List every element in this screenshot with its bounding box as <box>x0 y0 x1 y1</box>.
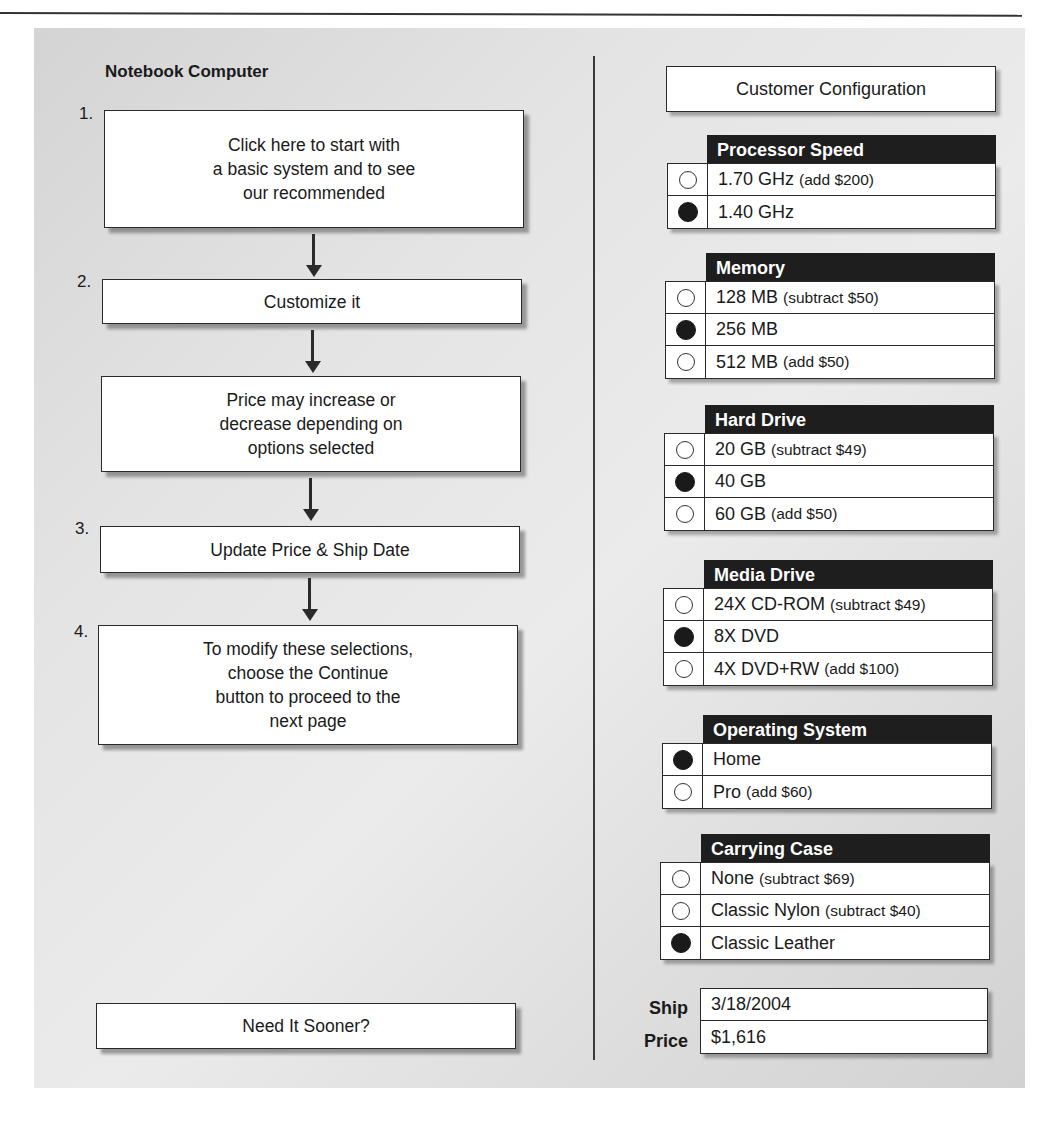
price-value: $1,616 <box>701 1021 987 1053</box>
option-label: 4X DVD+RW <box>714 659 819 680</box>
radio-selected-icon[interactable] <box>673 750 693 770</box>
group-header-processor-speed: Processor Speed <box>707 135 996 163</box>
update-price-ship-date-button[interactable]: Update Price & Ship Date <box>100 526 520 573</box>
option-label: None <box>711 868 754 889</box>
arrow-down-icon <box>302 578 318 622</box>
option-hdd-20gb[interactable]: 20 GB(subtract $49) <box>665 434 993 466</box>
ship-date-value: 3/18/2004 <box>701 989 987 1021</box>
option-os-home[interactable]: Home <box>663 744 991 776</box>
section-title: Notebook Computer <box>105 62 268 82</box>
price-change-note: Price may increase or decrease depending… <box>101 376 521 472</box>
group-hard-drive: 20 GB(subtract $49) 40 GB 60 GB(add $50) <box>664 433 994 531</box>
option-label: 60 GB <box>715 504 766 525</box>
radio-unselected-icon[interactable] <box>672 902 690 920</box>
option-price-note: (add $50) <box>771 505 837 523</box>
group-header-memory: Memory <box>706 253 995 281</box>
top-rule <box>0 12 1022 17</box>
arrow-down-icon <box>303 478 319 522</box>
option-label: 24X CD-ROM <box>714 594 825 615</box>
arrow-down-icon <box>305 330 321 374</box>
radio-unselected-icon[interactable] <box>675 660 693 678</box>
option-media-4x-dvdrw[interactable]: 4X DVD+RW(add $100) <box>664 653 992 685</box>
option-price-note: (subtract $50) <box>783 289 879 307</box>
option-case-classic-leather[interactable]: Classic Leather <box>661 927 989 959</box>
option-label: 20 GB <box>715 439 766 460</box>
option-price-note: (subtract $40) <box>825 902 921 920</box>
group-processor-speed: 1.70 GHz(add $200) 1.40 GHz <box>667 163 996 229</box>
group-header-hard-drive: Hard Drive <box>705 405 994 433</box>
step-number-2: 2. <box>77 272 91 292</box>
option-price-note: (subtract $49) <box>830 596 926 614</box>
option-price-note: (add $60) <box>746 783 812 801</box>
ship-label: Ship <box>644 992 688 1025</box>
arrow-down-icon <box>306 234 322 278</box>
option-case-classic-nylon[interactable]: Classic Nylon(subtract $40) <box>661 895 989 927</box>
option-price-note: (subtract $69) <box>759 870 855 888</box>
need-it-sooner-button[interactable]: Need It Sooner? <box>96 1003 516 1049</box>
radio-selected-icon[interactable] <box>675 472 695 492</box>
option-label: 40 GB <box>715 471 766 492</box>
option-case-none[interactable]: None(subtract $69) <box>661 863 989 895</box>
option-label: Classic Nylon <box>711 900 820 921</box>
radio-unselected-icon[interactable] <box>676 505 694 523</box>
summary-box: 3/18/2004 $1,616 <box>700 988 988 1054</box>
option-hdd-60gb[interactable]: 60 GB(add $50) <box>665 498 993 530</box>
option-memory-128mb[interactable]: 128 MB(subtract $50) <box>666 282 994 314</box>
step-number-1: 1. <box>79 104 93 124</box>
continue-instructions[interactable]: To modify these selections, choose the C… <box>98 625 518 745</box>
option-label: 256 MB <box>716 319 778 340</box>
option-label: 512 MB <box>716 352 778 373</box>
group-operating-system: Home Pro(add $60) <box>662 743 992 809</box>
group-media-drive: 24X CD-ROM(subtract $49) 8X DVD 4X DVD+R… <box>663 588 993 686</box>
radio-unselected-icon[interactable] <box>676 441 694 459</box>
radio-unselected-icon[interactable] <box>679 171 697 189</box>
step-number-4: 4. <box>74 622 88 642</box>
option-price-note: (subtract $49) <box>771 441 867 459</box>
radio-selected-icon[interactable] <box>671 933 691 953</box>
option-price-note: (add $200) <box>799 171 874 189</box>
option-processor-1-40ghz[interactable]: 1.40 GHz <box>668 196 995 228</box>
group-header-operating-system: Operating System <box>703 715 992 743</box>
radio-unselected-icon[interactable] <box>672 870 690 888</box>
radio-unselected-icon[interactable] <box>674 783 692 801</box>
customer-configuration-title: Customer Configuration <box>666 66 996 112</box>
group-header-carrying-case: Carrying Case <box>701 834 990 862</box>
option-price-note: (add $100) <box>824 660 899 678</box>
customize-button[interactable]: Customize it <box>102 279 522 324</box>
group-carrying-case: None(subtract $69) Classic Nylon(subtrac… <box>660 862 990 960</box>
option-os-pro[interactable]: Pro(add $60) <box>663 776 991 808</box>
option-processor-1-70ghz[interactable]: 1.70 GHz(add $200) <box>668 164 995 196</box>
option-price-note: (add $50) <box>783 353 849 371</box>
option-label: Home <box>713 749 761 770</box>
radio-unselected-icon[interactable] <box>677 353 695 371</box>
option-hdd-40gb[interactable]: 40 GB <box>665 466 993 498</box>
option-label: 1.70 GHz <box>718 169 794 190</box>
radio-selected-icon[interactable] <box>678 202 698 222</box>
price-label: Price <box>644 1025 688 1058</box>
radio-selected-icon[interactable] <box>674 627 694 647</box>
radio-unselected-icon[interactable] <box>677 289 695 307</box>
group-header-media-drive: Media Drive <box>704 560 993 588</box>
option-label: 8X DVD <box>714 626 779 647</box>
option-label: 1.40 GHz <box>718 202 794 223</box>
option-label: 128 MB <box>716 287 778 308</box>
radio-selected-icon[interactable] <box>676 320 696 340</box>
option-media-8x-dvd[interactable]: 8X DVD <box>664 621 992 653</box>
option-media-24x-cdrom[interactable]: 24X CD-ROM(subtract $49) <box>664 589 992 621</box>
option-label: Classic Leather <box>711 933 835 954</box>
group-memory: 128 MB(subtract $50) 256 MB 512 MB(add $… <box>665 281 995 379</box>
step-number-3: 3. <box>75 519 89 539</box>
summary-labels: Ship Price <box>644 992 688 1058</box>
option-label: Pro <box>713 782 741 803</box>
radio-unselected-icon[interactable] <box>675 596 693 614</box>
column-divider <box>593 56 595 1060</box>
start-basic-system-button[interactable]: Click here to start with a basic system … <box>104 110 524 228</box>
option-memory-256mb[interactable]: 256 MB <box>666 314 994 346</box>
option-memory-512mb[interactable]: 512 MB(add $50) <box>666 346 994 378</box>
